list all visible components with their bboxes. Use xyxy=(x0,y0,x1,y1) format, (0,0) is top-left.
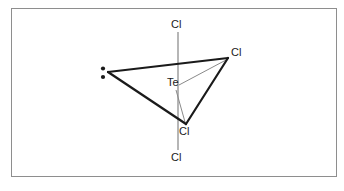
lone-pair-dot-upper xyxy=(101,66,105,70)
atom-label-cl-right: Cl xyxy=(231,47,241,58)
plane-edge-right-to-bottom xyxy=(186,58,228,124)
atom-label-cl-low: Cl xyxy=(171,152,181,163)
atom-label-cl-bottom: Cl xyxy=(179,126,189,137)
diagram-canvas: Cl Cl Te Cl Cl xyxy=(0,0,344,191)
lone-pair-dot-lower xyxy=(101,75,105,79)
plane-edge-lonepair-to-right xyxy=(108,58,228,72)
atom-label-te-center: Te xyxy=(167,77,179,88)
atom-label-cl-top: Cl xyxy=(171,19,181,30)
